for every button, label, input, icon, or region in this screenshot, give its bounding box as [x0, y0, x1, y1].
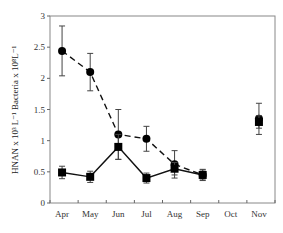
circle-marker [86, 68, 94, 76]
square-marker [255, 118, 263, 126]
series-square [58, 116, 263, 183]
axes: 00.511.522.53AprMayJunJulAugSepOctNov [34, 11, 275, 219]
x-tick-label: Sep [196, 209, 210, 219]
y-tick-label: 3 [41, 11, 46, 21]
x-tick-label: Nov [251, 209, 267, 219]
square-marker [171, 165, 179, 173]
series-layer [58, 26, 263, 183]
y-tick-label: 1.5 [34, 105, 46, 115]
x-tick-label: Aug [167, 209, 183, 219]
square-marker [86, 173, 94, 181]
x-tick-label: May [82, 209, 99, 219]
y-tick-label: 2 [41, 73, 46, 83]
x-tick-label: Jul [141, 209, 152, 219]
series-line [62, 51, 203, 175]
y-axis-label: HNAN x 10³ L⁻¹ Bacteria x 10⁸L⁻¹ [10, 46, 20, 175]
x-tick-label: Apr [55, 209, 69, 219]
square-marker [199, 171, 207, 179]
circle-marker [142, 135, 150, 143]
line-chart: 00.511.522.53AprMayJunJulAugSepOctNov HN… [0, 0, 283, 233]
x-tick-label: Jun [112, 209, 125, 219]
square-marker [114, 143, 122, 151]
x-tick-label: Oct [224, 209, 237, 219]
y-tick-label: 0.5 [34, 167, 46, 177]
square-marker [142, 174, 150, 182]
y-tick-label: 1 [41, 136, 46, 146]
series-circle [58, 26, 263, 180]
plot-frame [50, 16, 275, 203]
circle-marker [58, 47, 66, 55]
y-tick-label: 0 [41, 198, 46, 208]
series-line [62, 147, 203, 178]
square-marker [58, 168, 66, 176]
y-tick-label: 2.5 [34, 42, 46, 52]
